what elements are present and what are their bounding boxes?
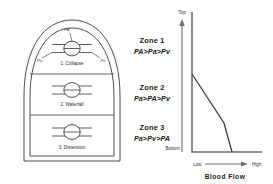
flow-arrow-head xyxy=(241,161,248,166)
west-zones-figure: PA Pa Pv 1. Collapse 2. Waterfall 3. Dis… xyxy=(0,0,273,184)
zone-1-alveolar-pressure-label: PA xyxy=(64,27,69,32)
zone-1-pa-arterial-pointer xyxy=(42,53,52,59)
chart-bottom-label: Bottom xyxy=(165,146,180,151)
blood-flow-curve xyxy=(192,74,232,152)
chart-high-label: High xyxy=(252,162,262,167)
figure-canvas: PA Pa Pv 1. Collapse 2. Waterfall 3. Dis… xyxy=(0,0,273,184)
zone-3-title: Zone 3 xyxy=(139,123,164,132)
chart-x-axis-title: Blood Flow xyxy=(205,173,246,180)
zone-2-mechanism-label: 2. Waterfall xyxy=(60,102,83,107)
zone-1-venous-pressure-label: Pv xyxy=(101,58,107,63)
zone-2-title: Zone 2 xyxy=(139,83,164,92)
zone-1-mechanism-label: 1. Collapse xyxy=(61,61,84,66)
zone-1-pv-pointer xyxy=(92,53,100,59)
zone-1-equation: PA>Pa>Pv xyxy=(134,47,171,56)
zone-3-mechanism-label: 3. Distension xyxy=(59,145,86,150)
zone-2-capillary-unit xyxy=(52,83,92,98)
zone-1-pa-pointer xyxy=(70,33,72,41)
height-arrow-head xyxy=(179,19,185,26)
zone-1-title: Zone 1 xyxy=(139,36,164,45)
zone-1-capillary-unit xyxy=(42,33,100,58)
zone-3-equation: Pa>Pv>PA xyxy=(134,134,170,143)
flow-direction-arrow xyxy=(205,161,248,166)
zone-1-arterial-pressure-label: Pa xyxy=(37,58,43,63)
chart-low-label: Low xyxy=(193,162,202,167)
chart-axes xyxy=(192,12,262,152)
chart-top-label: Top xyxy=(178,10,186,15)
zone-3-capillary-unit xyxy=(52,125,92,140)
zone-2-equation: Pa>PA>Pv xyxy=(134,94,171,103)
height-direction-arrow xyxy=(179,19,185,152)
